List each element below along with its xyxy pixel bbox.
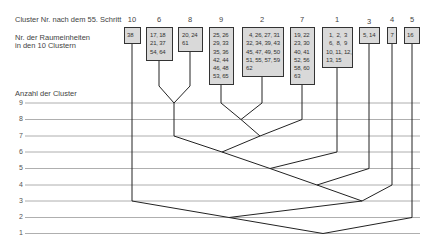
cluster-box-6: 17, 18 21, 37 54, 64 <box>146 27 173 61</box>
gridlines <box>25 103 420 234</box>
cluster-box-4: 7 <box>387 27 397 44</box>
cluster-box-2: 4, 26, 27, 31 32, 34, 39, 43 45, 47, 49,… <box>242 27 284 77</box>
cluster-box-5: 16 <box>404 27 420 44</box>
cluster-box-9: 25, 26 29, 33 35, 36 42, 44 46, 48 53, 6… <box>209 27 234 85</box>
cluster-box-10: 38 <box>124 27 141 44</box>
cluster-box-8: 20, 24 61 <box>178 27 203 52</box>
cluster-box-1: 1, 2, 3 6, 8, 9 10, 11, 12, 13, 15 <box>322 27 353 68</box>
cluster-box-3: 5, 14 <box>359 27 380 44</box>
cluster-box-7: 19, 22 23, 30 40, 41 52, 56 58, 60 63 <box>290 27 315 85</box>
